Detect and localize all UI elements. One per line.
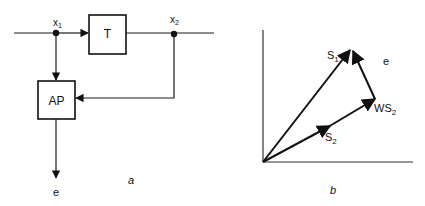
caption-a: a: [128, 174, 134, 186]
s2-label: S2: [325, 131, 337, 146]
t-block-label: T: [104, 27, 112, 41]
x2-label: x2: [170, 14, 179, 26]
output-e-label: e: [53, 186, 59, 198]
caption-b: b: [330, 184, 336, 196]
s1-vector-arrow: [263, 50, 350, 162]
x1-label: x1: [53, 17, 62, 29]
e-error-vector-arrow: [353, 51, 375, 99]
s2-vector-arrow: [263, 126, 330, 162]
ap-block-label: AP: [48, 94, 64, 108]
block-diagram-a: T x1 x2 AP e a: [14, 14, 214, 198]
ws2-vector-arrow: [328, 99, 375, 127]
ws2-label: WS2: [374, 102, 397, 117]
vector-diagram-b: S1 S2 WS2 e b: [263, 30, 413, 196]
e-vector-label: e: [383, 55, 389, 67]
figure: T x1 x2 AP e a S1: [0, 0, 425, 206]
s1-label: S1: [327, 49, 339, 64]
